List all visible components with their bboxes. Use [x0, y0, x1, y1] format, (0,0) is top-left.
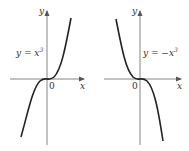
x-axis-label: x	[80, 81, 85, 91]
y-axis-label: y	[38, 6, 45, 16]
cubic-graphs-figure: y x 0 y = x3 y x 0 y = −x3	[0, 0, 189, 151]
origin-label: 0	[49, 81, 55, 91]
graph-y-equals-neg-x-cubed: y x 0 y = −x3	[104, 6, 182, 145]
curve-neg-x-cubed	[116, 19, 163, 141]
equation-label: y = x3	[15, 46, 43, 58]
equation-label: y = −x3	[142, 46, 178, 58]
y-axis-label: y	[131, 6, 138, 16]
graph-y-equals-x-cubed: y x 0 y = x3	[10, 6, 85, 145]
curve-x-cubed	[21, 18, 71, 137]
x-axis-label: x	[177, 81, 182, 91]
origin-label: 0	[132, 81, 138, 91]
